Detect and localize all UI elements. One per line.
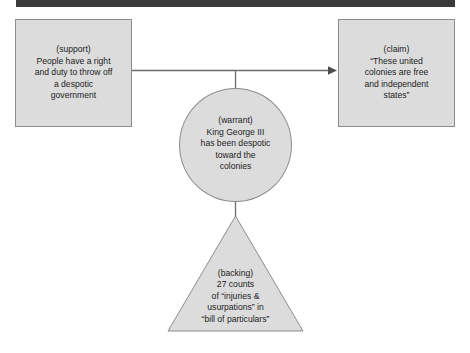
node-claim[interactable]: (claim) “These united colonies are free … xyxy=(338,19,455,127)
node-claim-label: (claim) “These united colonies are free … xyxy=(360,44,432,101)
node-warrant[interactable]: (warrant) King George III has been despo… xyxy=(179,88,292,202)
node-support-label: (support) People have a right and duty t… xyxy=(31,44,117,101)
node-support[interactable]: (support) People have a right and duty t… xyxy=(15,19,132,127)
node-warrant-label: (warrant) King George III has been despo… xyxy=(193,115,279,172)
diagram-canvas: (support) People have a right and duty t… xyxy=(0,0,470,353)
support-to-claim-arrow xyxy=(132,66,337,74)
node-backing[interactable]: (backing) 27 counts of “injuries & usurp… xyxy=(167,215,304,332)
node-backing-label: (backing) 27 counts of “injuries & usurp… xyxy=(167,268,304,325)
